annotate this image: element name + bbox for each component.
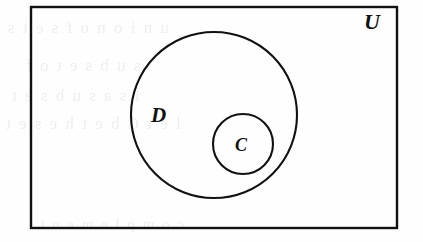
set-d-label: D bbox=[151, 105, 166, 126]
universe-label: U bbox=[364, 11, 380, 33]
figure-canvas: u n i o n o f s e t s s u b s e t o f i … bbox=[0, 0, 423, 242]
set-c-label: C bbox=[235, 136, 247, 154]
universe-rectangle bbox=[31, 7, 397, 228]
euler-diagram bbox=[0, 0, 423, 242]
